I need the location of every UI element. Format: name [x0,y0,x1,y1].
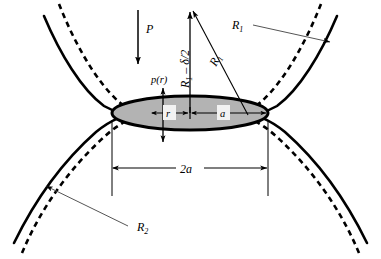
upper-radius-leader-line [253,25,330,42]
load-label: P [145,22,154,36]
approach-label: R1 – δ/2 [178,50,194,89]
upper-body-deformed-right-curve [239,16,337,113]
lower-body-deformed-right-curve [239,113,367,243]
hertz-contact-figure: P R1 – δ/2 R1 p(r) r a [0,0,381,259]
lower-radius-label: R2 [136,220,148,236]
pressure-label: p(r) [150,74,168,86]
contact-radius-label: a [220,108,225,119]
approach-label-group: R1 – δ/2 [178,50,194,89]
upper-body-deformed-left-curve [44,16,142,113]
contact-diameter-label: 2a [180,162,192,176]
upper-radius-label: R1 [231,18,243,34]
diagram-canvas: P R1 – δ/2 R1 p(r) r a [0,0,381,259]
lower-radius-leader-line [46,186,128,226]
